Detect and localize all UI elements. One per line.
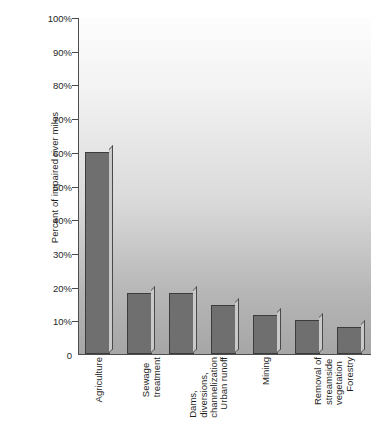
bar [127,293,152,354]
y-tick-label: 80% [34,80,72,91]
x-tick-label: Dams, diversions, channelization [188,357,220,418]
x-tick-label: Forestry [345,357,356,392]
bar [337,327,362,354]
y-tick-label: 50% [34,181,72,192]
y-tick-mark [72,254,78,255]
y-tick-label: 10% [34,316,72,327]
x-tick-label: Agriculture [94,357,105,402]
y-tick-label: 70% [34,114,72,125]
bar-chart: Percent of impaired river miles 010%20%3… [0,0,382,443]
x-axis-tick-labels: AgricultureSewage treatmentDams, diversi… [78,357,371,443]
x-tick-label: Sewage treatment [141,357,162,397]
y-tick-label: 0 [34,350,72,361]
y-tick-mark [72,85,78,86]
y-axis-tick-labels: 010%20%30%40%50%60%70%80%90%100% [28,0,72,443]
y-tick-label: 90% [34,46,72,57]
y-tick-mark [72,321,78,322]
bar [85,152,110,354]
y-tick-label: 100% [34,13,72,24]
bar [295,320,320,354]
y-tick-mark [72,153,78,154]
y-tick-label: 60% [34,147,72,158]
bars-layer [79,18,371,354]
y-tick-label: 40% [34,215,72,226]
x-tick-label: Removal of streamside vegetation [313,357,345,405]
y-tick-label: 20% [34,282,72,293]
y-tick-mark [72,18,78,19]
x-tick-label: Urban runoff [219,357,230,410]
x-tick-label: Mining [261,357,272,385]
bar [253,315,278,354]
y-tick-mark [72,187,78,188]
y-tick-mark [72,52,78,53]
plot-area [78,18,371,355]
y-tick-mark [72,220,78,221]
y-tick-mark [72,119,78,120]
y-tick-label: 30% [34,248,72,259]
bar [211,305,236,354]
y-tick-mark [72,288,78,289]
bar [169,293,194,354]
